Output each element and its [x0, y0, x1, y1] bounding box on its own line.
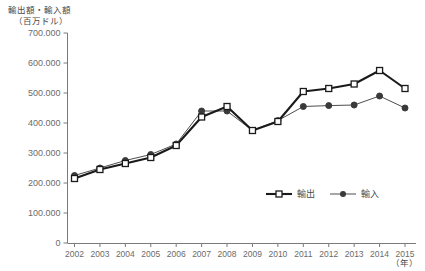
- x-axis-tick-label: 2002: [65, 249, 84, 259]
- x-axis-tick-label: 2014: [370, 249, 389, 259]
- x-axis-tick-label: 2004: [116, 249, 135, 259]
- x-axis-tick-label: 2003: [90, 249, 109, 259]
- y-axis-tick-label: 600.000: [28, 58, 61, 68]
- data-series-layer: [72, 68, 409, 182]
- data-point-marker: [377, 93, 383, 99]
- x-axis-tick-label: 2010: [268, 249, 287, 259]
- x-axis-tick-label: 2008: [218, 249, 237, 259]
- x-axis-tick-label: 2015: [396, 249, 415, 259]
- data-point-marker: [300, 89, 306, 95]
- x-axis-tick-label: 2011: [294, 249, 313, 259]
- y-axis-tick-label: 500.000: [28, 88, 61, 98]
- y-axis-tick-label: 100.000: [28, 208, 61, 218]
- x-axis-tick-label: 2006: [167, 249, 186, 259]
- y-axis-ticks: 0100.000200.000300.000400.000500.000600.…: [28, 28, 68, 248]
- data-point-marker: [402, 105, 408, 111]
- data-point-marker: [326, 86, 332, 92]
- x-axis-tick-label: 2013: [345, 249, 364, 259]
- y-axis-tick-label: 0: [55, 238, 60, 248]
- x-axis-tick-label: 2012: [319, 249, 338, 259]
- data-point-marker: [275, 119, 281, 125]
- legend-marker-filled-circle: [340, 191, 346, 197]
- chart-legend: 輸出輸入: [266, 188, 379, 199]
- y-axis-tick-label: 300.000: [28, 148, 61, 158]
- data-point-marker: [148, 155, 154, 161]
- data-point-marker: [351, 102, 357, 108]
- legend-marker-open-square: [276, 191, 282, 197]
- data-point-marker: [377, 68, 383, 74]
- plot-area: 0100.000200.000300.000400.000500.000600.…: [0, 0, 425, 271]
- legend-label-2: 輸入: [361, 188, 379, 199]
- x-axis-ticks: 2002200320042005200620072008200920102011…: [65, 243, 415, 259]
- x-axis-tick-label: 2007: [192, 249, 211, 259]
- data-point-marker: [199, 114, 205, 120]
- data-point-marker: [351, 81, 357, 87]
- data-point-marker: [199, 108, 205, 114]
- data-point-marker: [122, 161, 128, 167]
- y-axis-tick-label: 200.000: [28, 178, 61, 188]
- data-point-marker: [300, 104, 306, 110]
- data-point-marker: [72, 176, 78, 182]
- x-axis-tick-label: 2009: [243, 249, 262, 259]
- data-point-marker: [224, 104, 230, 110]
- data-point-marker: [97, 167, 103, 173]
- line-chart: 輸出額・輸入額 （百万ドル） （年） 0100.000200.000300.00…: [0, 0, 425, 271]
- x-axis-tick-label: 2005: [141, 249, 160, 259]
- legend-label-1: 輸出: [297, 188, 315, 199]
- data-point-marker: [249, 128, 255, 134]
- data-point-marker: [326, 103, 332, 109]
- data-point-marker: [173, 143, 179, 149]
- y-axis-tick-label: 400.000: [28, 118, 61, 128]
- data-point-marker: [402, 86, 408, 92]
- y-axis-tick-label: 700.000: [28, 28, 61, 38]
